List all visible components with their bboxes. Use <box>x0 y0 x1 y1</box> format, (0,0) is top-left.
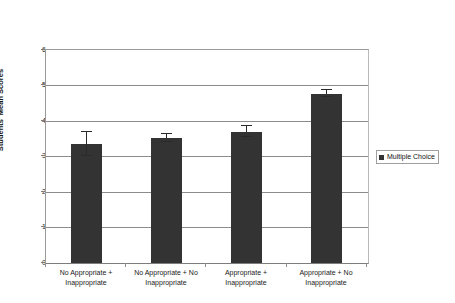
bar-group-1 <box>71 50 102 263</box>
bar-no-appropriate-plus-no-inappropriate[interactable] <box>151 138 182 263</box>
bar-no-appropriate-plus-inappropriate[interactable] <box>71 144 102 263</box>
x-category-label-1-line2: Inappropriate <box>46 278 126 288</box>
x-category-label-2-line1: No Appropriate + No <box>126 268 206 278</box>
x-category-label-3-line1: Appropriate + <box>206 268 286 278</box>
y-axis-title: Students' Mean Scores <box>0 0 5 230</box>
bar-chart: Students' Mean Scores 6 5 4 3 2 1 0 <box>0 0 455 303</box>
x-tick-mark-2 <box>205 263 206 267</box>
error-bar-stem-2 <box>166 134 167 138</box>
error-bar-cap-upper-1 <box>81 131 92 132</box>
x-tick-mark-0 <box>45 263 46 267</box>
x-category-label-3: Appropriate + Inappropriate <box>206 268 286 287</box>
error-bar-cap-lower-2 <box>161 141 172 142</box>
x-category-label-1-line1: No Appropriate + <box>46 268 126 278</box>
x-tick-mark-1 <box>125 263 126 267</box>
x-tick-mark-4 <box>366 263 367 267</box>
error-bar-cap-upper-3 <box>241 125 252 126</box>
error-bar-cap-lower-3 <box>241 136 252 137</box>
x-category-label-4-line1: Appropriate + No <box>286 268 366 278</box>
bar-appropriate-plus-inappropriate[interactable] <box>231 132 262 263</box>
error-bar-cap-upper-4 <box>321 89 332 90</box>
x-category-label-2-line2: Inappropriate <box>126 278 206 288</box>
x-category-label-4: Appropriate + No Inappropriate <box>286 268 366 287</box>
x-category-label-2: No Appropriate + No Inappropriate <box>126 268 206 287</box>
bar-group-4 <box>311 50 342 263</box>
error-bar-stem-lower-1 <box>86 144 87 156</box>
error-bar-cap-upper-2 <box>161 133 172 134</box>
bar-appropriate-plus-no-inappropriate[interactable] <box>311 94 342 263</box>
bar-group-2 <box>151 50 182 263</box>
x-category-label-4-line2: Inappropriate <box>286 278 366 288</box>
legend[interactable]: Multiple Choice <box>376 150 439 164</box>
legend-entry-label: Multiple Choice <box>387 153 435 161</box>
x-category-label-1: No Appropriate + Inappropriate <box>46 268 126 287</box>
legend-swatch-icon <box>379 155 384 160</box>
bar-group-3 <box>231 50 262 263</box>
x-tick-mark-3 <box>286 263 287 267</box>
error-bar-cap-lower-4 <box>321 96 332 97</box>
x-category-label-3-line2: Inappropriate <box>206 278 286 288</box>
error-bar-stem-4 <box>326 90 327 94</box>
plot-area <box>45 49 369 264</box>
error-bar-stem-1 <box>86 132 87 144</box>
error-bar-stem-3 <box>246 126 247 132</box>
